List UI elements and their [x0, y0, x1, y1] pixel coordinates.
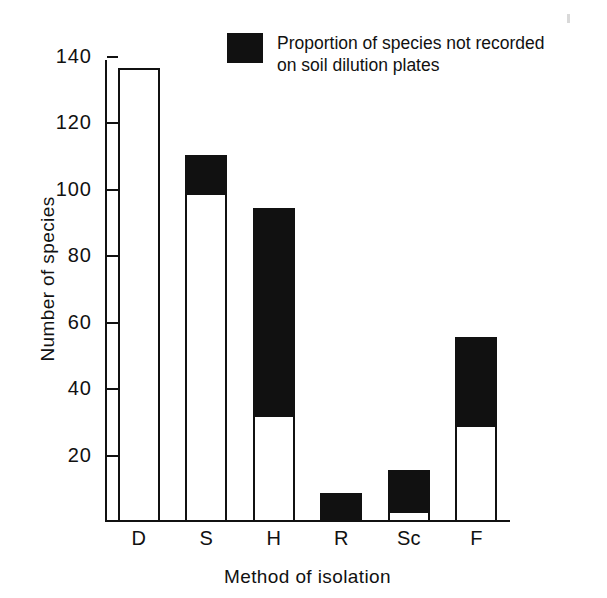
- bar-group: [105, 55, 510, 520]
- bar-segment-not-recorded: [455, 337, 497, 427]
- x-tick-label-s: S: [176, 528, 236, 548]
- bar-h[interactable]: [253, 208, 295, 520]
- bar-r[interactable]: [320, 493, 362, 520]
- bar-sc[interactable]: [388, 470, 430, 520]
- bar-f[interactable]: [455, 337, 497, 520]
- legend-label-line-2: on soil dilution plates: [277, 54, 545, 76]
- x-axis-tick-labels: DSHRScF: [105, 528, 510, 556]
- y-axis-tick-labels: 20406080100120140: [34, 0, 92, 598]
- bar-segment-recorded: [118, 68, 160, 520]
- x-tick-label-f: F: [446, 528, 506, 548]
- bar-s[interactable]: [185, 155, 227, 520]
- y-tick-label: 140: [40, 46, 92, 66]
- legend: Proportion of species not recorded on so…: [227, 32, 545, 77]
- y-tick-label: 40: [40, 378, 92, 398]
- y-tick-label: 100: [40, 179, 92, 199]
- y-tick-label: 60: [40, 312, 92, 332]
- bar-segment-not-recorded: [253, 208, 295, 417]
- bar-segment-not-recorded: [185, 155, 227, 195]
- bar-d[interactable]: [118, 68, 160, 520]
- x-tick-label-h: H: [244, 528, 304, 548]
- legend-swatch-not-recorded: [227, 33, 263, 63]
- bar-segment-recorded: [455, 427, 497, 520]
- bar-segment-not-recorded: [320, 493, 362, 520]
- x-tick-label-d: D: [109, 528, 169, 548]
- bar-segment-recorded: [388, 513, 430, 520]
- bar-segment-not-recorded: [388, 470, 430, 513]
- x-axis-title: Method of isolation: [105, 566, 510, 588]
- plot-area: [105, 55, 510, 522]
- legend-label-line-1: Proportion of species not recorded: [277, 32, 545, 54]
- x-tick-label-r: R: [311, 528, 371, 548]
- x-axis-line: [105, 520, 510, 522]
- y-tick-label: 20: [40, 445, 92, 465]
- scan-artifact: [567, 14, 570, 23]
- legend-label: Proportion of species not recorded on so…: [277, 32, 545, 77]
- y-tick-label: 80: [40, 245, 92, 265]
- y-tick-label: 120: [40, 112, 92, 132]
- bar-segment-recorded: [185, 195, 227, 521]
- x-tick-label-sc: Sc: [379, 528, 439, 548]
- bar-segment-recorded: [253, 417, 295, 520]
- bar-chart-figure: Number of species 20406080100120140 DSHR…: [0, 0, 607, 598]
